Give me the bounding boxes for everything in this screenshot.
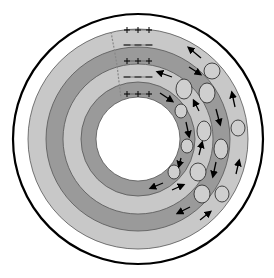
cell-ellipse	[214, 139, 228, 159]
cell-ellipse	[215, 186, 229, 202]
diagram-canvas	[0, 0, 274, 278]
cell-ellipse	[231, 120, 245, 136]
cell-ellipse	[176, 79, 192, 99]
cell-ellipse	[194, 185, 210, 203]
cell-ellipse	[190, 163, 206, 181]
central-hole	[96, 97, 180, 181]
cell-ellipse	[204, 63, 220, 79]
ring-diagram	[0, 0, 274, 278]
cell-ellipse	[199, 83, 215, 103]
cell-ellipse	[181, 139, 193, 153]
cell-ellipse	[168, 165, 180, 179]
cell-ellipse	[197, 121, 211, 141]
cell-ellipse	[175, 104, 187, 118]
